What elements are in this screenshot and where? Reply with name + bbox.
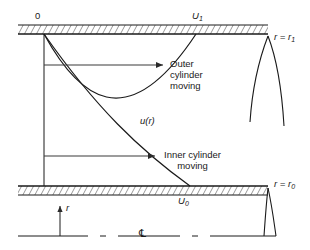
outer-cylinder-annotation: Outer cylinder moving xyxy=(170,58,203,91)
upper-wall-velocity-subscript: 1 xyxy=(199,15,203,22)
velocity-profile-figure: 0 U1 U0 u(r) Outer cylinder moving Inner… xyxy=(0,0,310,250)
outer-radius-profile-sketch xyxy=(250,36,284,126)
outer-cylinder-annotation-line-2: cylinder xyxy=(170,69,203,80)
figure-canvas xyxy=(0,0,310,250)
upper-wall-hatching xyxy=(18,25,268,34)
outer-radius-label: r = r1 xyxy=(274,31,295,45)
lower-wall-velocity-symbol: U xyxy=(178,195,185,206)
lower-wall-velocity-label: U0 xyxy=(178,195,189,209)
inner-cylinder-annotation-line-2: moving xyxy=(164,160,221,171)
radial-axis-label: r xyxy=(66,202,69,213)
lower-wall xyxy=(18,186,268,195)
inner-radius-symbol: r = r xyxy=(274,178,291,189)
outer-cylinder-annotation-line-1: Outer xyxy=(170,58,203,69)
upper-wall-velocity-symbol: U xyxy=(192,10,199,21)
upper-wall xyxy=(18,25,268,34)
upper-wall-velocity-label: U1 xyxy=(192,10,203,24)
outer-radius-profile-left-branch xyxy=(250,36,268,122)
origin-label: 0 xyxy=(35,10,40,21)
outer-radius-subscript: 1 xyxy=(291,36,295,43)
inner-radius-subscript: 0 xyxy=(291,183,295,190)
inner-cylinder-annotation: Inner cylinder moving xyxy=(164,149,221,171)
inner-cylinder-annotation-line-1: Inner cylinder xyxy=(164,149,221,160)
lower-wall-hatching xyxy=(18,186,268,195)
outer-cylinder-annotation-line-3: moving xyxy=(170,80,203,91)
inner-radius-profile-right-branch xyxy=(268,188,276,236)
centerline-symbol-label: ℄ xyxy=(139,228,146,239)
inner-radius-label: r = r0 xyxy=(274,178,295,192)
lower-wall-velocity-subscript: 0 xyxy=(185,200,189,207)
outer-radius-profile-right-branch xyxy=(268,36,284,126)
outer-radius-symbol: r = r xyxy=(274,31,291,42)
velocity-function-label: u(r) xyxy=(140,115,155,126)
